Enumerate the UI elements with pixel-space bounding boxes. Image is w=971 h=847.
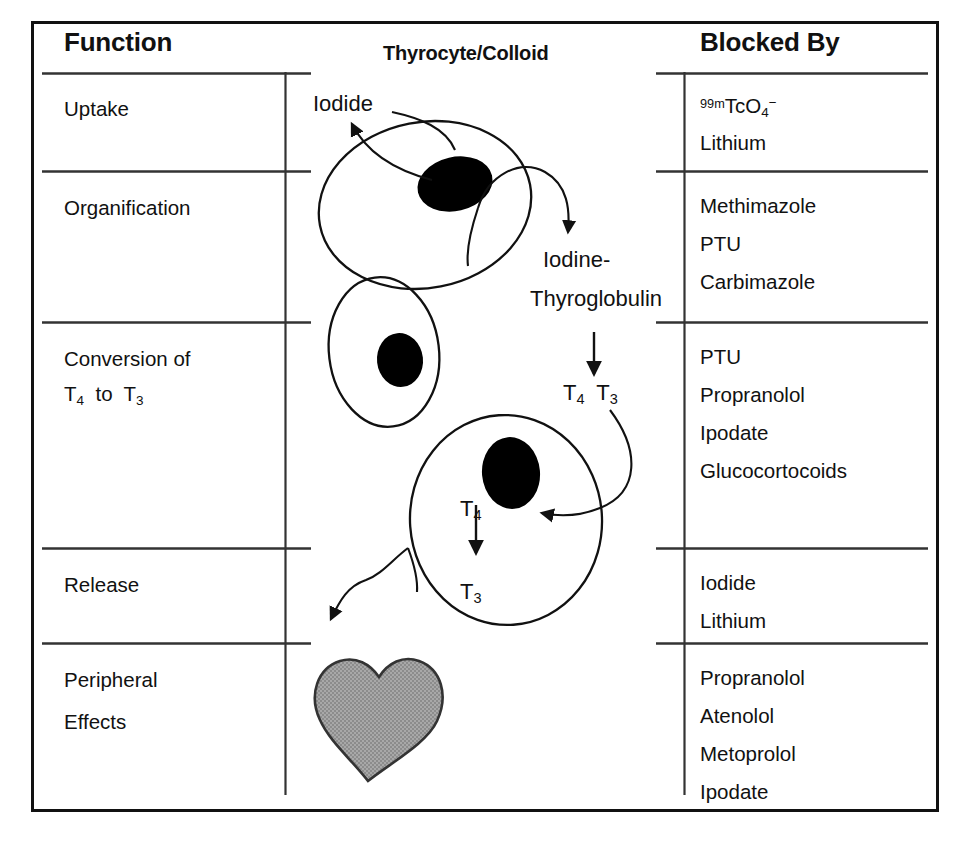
blocked-by-propranolol-peripheral: Propranolol (700, 668, 805, 689)
blocked-by-ipodate-peripheral: Ipodate (700, 782, 768, 803)
diagram-label-iodide: Iodide (313, 93, 373, 115)
function-label-peripheral-line1: Peripheral (64, 670, 157, 691)
diagram-label-thyroglobulin-line2: Thyroglobulin (530, 288, 662, 310)
blocked-by-ptu-organification: PTU (700, 234, 741, 255)
function-label-uptake: Uptake (64, 99, 129, 120)
release-arrow (331, 548, 408, 619)
row-rules-right (656, 74, 928, 644)
blocked-by-lithium-uptake: Lithium (700, 133, 766, 154)
cell-2-nucleus (374, 331, 425, 390)
blocked-by-lithium-release: Lithium (700, 611, 766, 632)
blocked-by-ptu-conversion: PTU (700, 347, 741, 368)
thyrocyte-cell-1 (304, 103, 546, 307)
function-label-conversion-line1: Conversion of (64, 349, 190, 370)
blocked-by-propranolol-conversion: Propranolol (700, 385, 805, 406)
blocked-by-iodide-release: Iodide (700, 573, 756, 594)
blocked-by-ipodate-conversion: Ipodate (700, 423, 768, 444)
function-label-organification: Organification (64, 198, 190, 219)
diagram-label-t4-t3-pair: T4 T3 (563, 382, 618, 407)
function-label-release: Release (64, 575, 139, 596)
iodide-leader-curve (392, 112, 455, 150)
blocked-by-carbimazole: Carbimazole (700, 272, 815, 293)
diagram-artwork (0, 0, 971, 847)
blocked-by-atenolol: Atenolol (700, 706, 774, 727)
blocked-by-technetium-pertechnetate: 99mTcO4− (700, 96, 777, 119)
blocked-by-glucocortocoids: Glucocortocoids (700, 461, 847, 482)
diagram-label-cell3-t4: T4 (460, 498, 482, 523)
column-header-function: Function (64, 29, 172, 55)
column-header-blocked-by: Blocked By (700, 29, 840, 55)
function-label-peripheral-line2: Effects (64, 712, 126, 733)
column-header-thyrocyte-colloid: Thyrocyte/Colloid (383, 43, 549, 63)
cell-1-nucleus (412, 149, 498, 219)
iodide-uptake-arrow (352, 124, 432, 180)
diagram-label-iodine-line1: Iodine- (543, 249, 610, 271)
diagram-label-cell3-t3: T3 (460, 581, 482, 606)
blocked-by-methimazole: Methimazole (700, 196, 816, 217)
cell-3-nucleus (479, 435, 543, 512)
blocked-by-metoprolol: Metoprolol (700, 744, 796, 765)
organification-tail (467, 208, 478, 266)
function-label-conversion-line2: T4 to T3 (64, 384, 144, 407)
heart-icon (315, 659, 443, 781)
